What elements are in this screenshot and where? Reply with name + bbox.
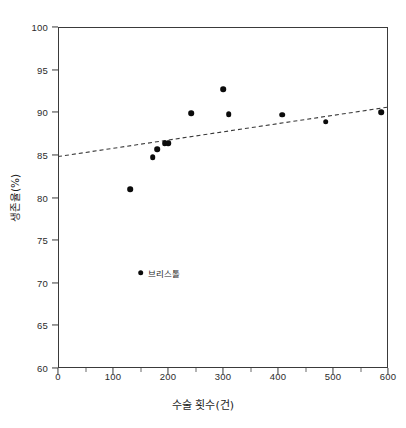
data-point	[165, 140, 171, 146]
x-tick-mark	[167, 368, 168, 374]
data-point	[154, 146, 160, 152]
y-tick-label: 85	[22, 149, 48, 160]
y-tick-label: 65	[22, 320, 48, 331]
data-point	[138, 270, 144, 276]
y-tick-label: 95	[22, 64, 48, 75]
y-tick-mark	[52, 282, 58, 283]
x-minor-tick-mark	[250, 368, 251, 372]
data-point	[323, 119, 329, 125]
y-axis-title: 생존율(%)	[7, 174, 22, 222]
y-tick-label: 75	[22, 235, 48, 246]
x-tick-mark	[332, 368, 333, 374]
data-point	[379, 109, 385, 115]
y-tick-label: 90	[22, 107, 48, 118]
x-minor-tick-mark	[85, 368, 86, 372]
data-point	[188, 110, 194, 116]
y-tick-mark	[52, 197, 58, 198]
x-tick-mark	[222, 368, 223, 374]
x-tick-mark	[387, 368, 388, 374]
y-tick-mark	[52, 112, 58, 113]
y-tick-label: 100	[22, 22, 48, 33]
x-minor-tick-mark	[360, 368, 361, 372]
data-point	[220, 86, 226, 92]
data-point	[280, 112, 286, 118]
data-point	[127, 186, 133, 192]
y-tick-mark	[52, 240, 58, 241]
x-minor-tick-mark	[140, 368, 141, 372]
y-tick-mark	[52, 325, 58, 326]
trendline-layer	[58, 27, 388, 368]
y-tick-mark	[52, 154, 58, 155]
trendline	[58, 107, 388, 156]
y-tick-mark	[52, 69, 58, 70]
x-axis-title: 수술 횟수(건)	[0, 396, 406, 412]
data-point	[150, 155, 156, 161]
x-tick-mark	[277, 368, 278, 374]
point-annotation-label: 브리스톨	[148, 267, 180, 279]
y-tick-label: 80	[22, 192, 48, 203]
y-tick-mark	[52, 26, 58, 27]
data-point	[226, 111, 232, 117]
x-minor-tick-mark	[195, 368, 196, 372]
x-tick-mark	[112, 368, 113, 374]
scatter-chart-figure: 6065707580859095100 0100200300400500600 …	[0, 0, 406, 428]
x-tick-mark	[57, 368, 58, 374]
x-minor-tick-mark	[305, 368, 306, 372]
y-tick-label: 60	[22, 363, 48, 374]
y-tick-label: 70	[22, 277, 48, 288]
